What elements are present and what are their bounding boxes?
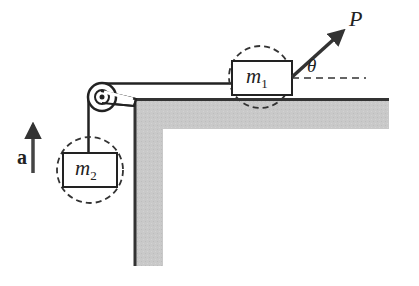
- pulley-diagram: m1 m2 P θ a: [0, 0, 419, 286]
- m2-subscript: 2: [90, 168, 97, 183]
- m2-label: m2: [75, 158, 97, 179]
- angle-theta-label: θ: [307, 56, 316, 75]
- m1-label: m1: [246, 66, 268, 87]
- force-p-arrow: [292, 31, 343, 77]
- m1-symbol: m: [246, 64, 261, 88]
- m2-symbol: m: [75, 156, 90, 180]
- table-surface: [133, 98, 389, 266]
- force-p-label: P: [349, 8, 362, 30]
- m1-subscript: 1: [261, 76, 268, 91]
- pulley-icon: [88, 83, 136, 111]
- acceleration-label: a: [17, 147, 27, 167]
- diagram-graphics: [0, 0, 419, 286]
